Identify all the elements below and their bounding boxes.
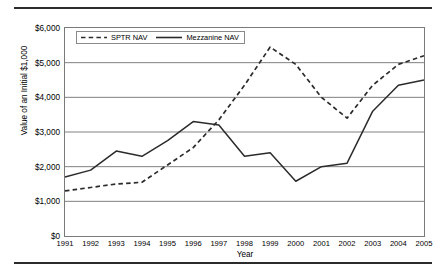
legend-key-dashed-icon bbox=[81, 34, 107, 41]
legend-label-sptr-nav: SPTR NAV bbox=[111, 34, 147, 41]
legend-entry-mezzanine-nav: Mezzanine NAV bbox=[156, 34, 238, 41]
plot-area bbox=[64, 27, 425, 237]
chart-figure: Value of an Initial $1,000 $0$1,000$2,00… bbox=[0, 0, 446, 272]
x-axis-title: Year bbox=[64, 250, 426, 259]
x-tick-label: 2005 bbox=[407, 239, 441, 248]
series-line-sptr-nav bbox=[65, 47, 424, 191]
legend: SPTR NAV Mezzanine NAV bbox=[76, 31, 245, 44]
y-tick-label: $2,000 bbox=[16, 162, 60, 171]
y-tick-label: $3,000 bbox=[16, 128, 60, 137]
gridlines bbox=[65, 63, 424, 202]
legend-label-mezzanine-nav: Mezzanine NAV bbox=[186, 34, 238, 41]
series-svg bbox=[65, 28, 424, 236]
y-tick-label: $5,000 bbox=[16, 58, 60, 67]
bottom-divider-rule bbox=[14, 262, 432, 264]
top-divider-rule bbox=[14, 7, 432, 9]
series-line-mezzanine-nav bbox=[65, 80, 424, 181]
y-axis-tick-labels: $0$1,000$2,000$3,000$4,000$5,000$6,000 bbox=[14, 0, 60, 272]
y-tick-label: $4,000 bbox=[16, 93, 60, 102]
legend-key-solid-icon bbox=[156, 34, 182, 41]
y-tick-label: $6,000 bbox=[16, 24, 60, 33]
y-tick-label: $1,000 bbox=[16, 197, 60, 206]
legend-entry-sptr-nav: SPTR NAV bbox=[81, 34, 147, 41]
